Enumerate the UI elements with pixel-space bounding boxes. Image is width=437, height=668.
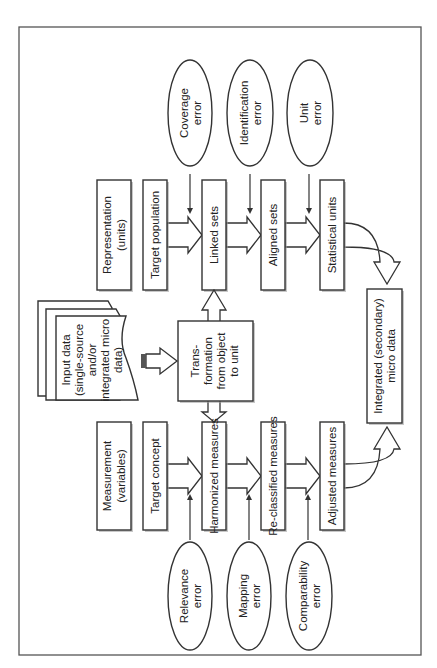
arrow-input-tail — [141, 354, 146, 368]
integrated-line1: Integrated (secondary) — [372, 298, 384, 414]
relevance-error-ellipse: Relevance error — [168, 542, 212, 650]
input-data-line4: integrated micro — [99, 319, 111, 401]
reclassified-measures-box: Re-classified measures — [261, 416, 287, 536]
target-concept-box: Target concept — [143, 422, 169, 532]
input-data-line1: Input data — [60, 334, 72, 386]
step-target-concept: Target concept — [149, 437, 161, 513]
identification-error-line2: error — [251, 101, 263, 125]
representation-header-line1: Representation — [101, 196, 113, 274]
input-data-document-stack: Input data (single-source and/or integra… — [38, 301, 138, 401]
mapping-error-line1: Mapping — [237, 574, 249, 618]
unit-error-line1: Unit — [298, 102, 310, 123]
comparability-error-line1: Comparability — [297, 561, 309, 632]
unit-error-ellipse: Unit error — [287, 60, 333, 166]
relevance-error-line1: Relevance — [178, 569, 190, 623]
identification-error-line1: Identification — [238, 81, 250, 146]
step-reclassified-measures: Re-classified measures — [267, 416, 279, 536]
input-data-line2: (single-source — [73, 324, 85, 396]
step-adjusted-measures: Adjusted measures — [326, 427, 338, 526]
measurement-header-line1: Measurement — [101, 440, 113, 511]
mapping-error-line2: error — [250, 584, 262, 608]
comparability-error-line2: error — [310, 584, 322, 608]
transformation-line2: formation — [202, 337, 214, 385]
coverage-error-line1: Coverage — [178, 88, 190, 138]
measurement-header-box: Measurement (variables) — [97, 422, 133, 532]
aligned-sets-box: Aligned sets — [261, 180, 287, 292]
step-aligned-sets: Aligned sets — [267, 203, 279, 266]
harmonized-measures-box: Harmonized measures — [202, 418, 228, 534]
statistical-units-box: Statistical units — [320, 180, 346, 292]
step-harmonized-measures: Harmonized measures — [208, 418, 220, 534]
coverage-error-line2: error — [191, 101, 203, 125]
linked-sets-box: Linked sets — [202, 180, 228, 292]
target-population-box: Target population — [143, 180, 169, 292]
representation-header-line2: (units) — [115, 219, 127, 251]
step-linked-sets: Linked sets — [208, 206, 220, 264]
input-data-line5: data) — [112, 347, 124, 373]
adjusted-measures-box: Adjusted measures — [320, 422, 346, 532]
comparability-error-ellipse: Comparability error — [286, 542, 332, 650]
transformation-line3: from object — [215, 332, 227, 390]
coverage-error-ellipse: Coverage error — [168, 60, 212, 166]
representation-header-box: Representation (units) — [97, 180, 133, 292]
two-track-integration-diagram: Representation (units) Target population… — [0, 0, 437, 668]
transformation-line4: to unit — [228, 345, 240, 377]
step-statistical-units: Statistical units — [326, 196, 338, 273]
integrated-line2: micro data — [385, 329, 397, 383]
transformation-box: Trans- formation from object to unit — [178, 321, 255, 403]
mapping-error-ellipse: Mapping error — [227, 542, 271, 650]
unit-error-line2: error — [311, 101, 323, 125]
input-data-line3: and/or — [86, 344, 98, 377]
measurement-header-line2: (variables) — [115, 449, 127, 503]
step-target-population: Target population — [149, 191, 161, 279]
identification-error-ellipse: Identification error — [227, 60, 273, 166]
integrated-micro-data-box: Integrated (secondary) micro data — [367, 289, 404, 425]
transformation-line1: Trans- — [189, 344, 201, 377]
relevance-error-line2: error — [191, 584, 203, 608]
